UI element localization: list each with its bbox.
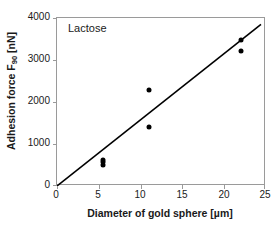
plot-area: Lactose: [56, 17, 265, 185]
data-point: [100, 157, 105, 162]
y-axis-title-wrapper: Adhesion force F90 [nN]: [0, 0, 20, 185]
y-axis-title-unit: [nN]: [5, 32, 17, 56]
x-axis-title: Diameter of gold sphere [µm]: [40, 207, 280, 219]
data-point: [238, 37, 243, 42]
x-tick-label-15: 15: [167, 190, 197, 200]
data-point: [146, 124, 151, 129]
y-tick-label-3000: 3000: [6, 54, 50, 64]
chart-figure: Adhesion force F90 [nN] 4000 3000 2000 1…: [0, 0, 280, 230]
x-tick-label-0: 0: [41, 190, 71, 200]
y-tick-label-4000: 4000: [6, 12, 50, 22]
y-tick-label-2000: 2000: [6, 96, 50, 106]
linear-fit-line: [57, 18, 266, 186]
x-tick-label-25: 25: [250, 190, 280, 200]
x-tick-label-10: 10: [125, 190, 155, 200]
x-tick-label-5: 5: [83, 190, 113, 200]
data-point: [238, 48, 243, 53]
y-tick-label-0: 0: [6, 180, 50, 190]
x-tick-label-20: 20: [209, 190, 239, 200]
y-tick-label-1000: 1000: [6, 138, 50, 148]
data-point: [146, 87, 151, 92]
